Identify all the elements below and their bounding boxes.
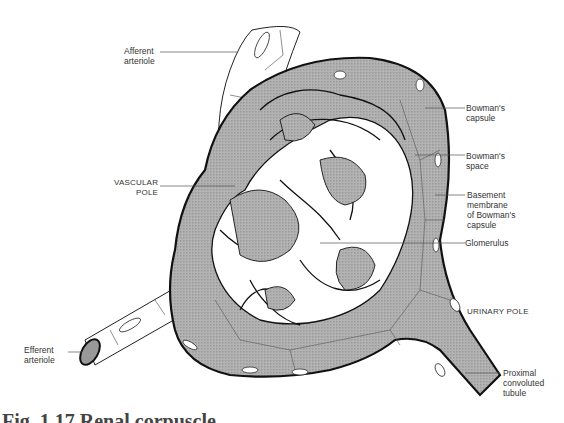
label-bowmans-space: Bowman's space (466, 151, 505, 171)
figure-caption: Fig. 1.17 Renal corpuscle (2, 408, 216, 423)
label-vascular-pole: VASCULAR POLE (114, 178, 158, 198)
label-afferent-arteriole: Afferent arteriole (124, 46, 155, 66)
label-basement-membrane: Basement membrane of Bowman's capsule (467, 190, 515, 230)
label-urinary-pole: URINARY POLE (467, 307, 529, 317)
label-bowmans-capsule: Bowman's capsule (466, 103, 505, 123)
label-glomerulus: Glomerulus (465, 238, 508, 248)
label-proximal-convoluted-tubule: Proximal convoluted tubule (503, 368, 544, 398)
label-efferent-arteriole: Efferent arteriole (24, 345, 55, 365)
